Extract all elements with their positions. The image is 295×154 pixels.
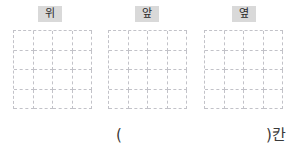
- grid-cell[interactable]: [129, 51, 149, 71]
- grid-cell[interactable]: [225, 51, 245, 71]
- view-label-side: 옆: [232, 6, 256, 22]
- grid-cell[interactable]: [225, 31, 245, 51]
- grid-side-view[interactable]: [204, 30, 283, 109]
- grid-cell[interactable]: [148, 31, 168, 51]
- answer-open-paren: (: [116, 126, 122, 144]
- grid-cell[interactable]: [129, 90, 149, 110]
- grid-cell[interactable]: [109, 31, 129, 51]
- grid-cell[interactable]: [168, 90, 188, 110]
- view-label-front: 앞: [135, 6, 159, 22]
- grid-cell[interactable]: [205, 31, 225, 51]
- grid-cell[interactable]: [264, 70, 284, 90]
- grid-cell[interactable]: [109, 51, 129, 71]
- grid-cell[interactable]: [73, 51, 93, 71]
- grid-cell[interactable]: [264, 31, 284, 51]
- grid-cell[interactable]: [264, 51, 284, 71]
- grid-cell[interactable]: [14, 51, 34, 71]
- grid-cell[interactable]: [73, 90, 93, 110]
- grid-cell[interactable]: [205, 90, 225, 110]
- grid-top-view[interactable]: [13, 30, 92, 109]
- grid-cell[interactable]: [148, 51, 168, 71]
- grid-cell[interactable]: [34, 70, 54, 90]
- grid-cell[interactable]: [53, 70, 73, 90]
- grid-cell[interactable]: [168, 51, 188, 71]
- grid-cell[interactable]: [129, 31, 149, 51]
- grid-cell[interactable]: [109, 70, 129, 90]
- grid-cell[interactable]: [34, 90, 54, 110]
- grid-cell[interactable]: [244, 70, 264, 90]
- grid-cell[interactable]: [73, 31, 93, 51]
- answer-close-paren-unit: )칸: [266, 126, 286, 144]
- view-label-top: 위: [38, 6, 62, 22]
- grid-cell[interactable]: [34, 51, 54, 71]
- views-worksheet: 위 앞 옆: [0, 0, 295, 154]
- grid-cell[interactable]: [205, 70, 225, 90]
- grid-cell[interactable]: [109, 90, 129, 110]
- grid-cell[interactable]: [264, 90, 284, 110]
- grid-cell[interactable]: [14, 31, 34, 51]
- grid-cell[interactable]: [148, 90, 168, 110]
- grid-cell[interactable]: [168, 31, 188, 51]
- grid-cell[interactable]: [168, 70, 188, 90]
- grid-cell[interactable]: [225, 70, 245, 90]
- grid-cell[interactable]: [14, 70, 34, 90]
- grid-cell[interactable]: [73, 70, 93, 90]
- grid-cell[interactable]: [53, 51, 73, 71]
- grid-cell[interactable]: [14, 90, 34, 110]
- grid-cell[interactable]: [244, 51, 264, 71]
- grid-cell[interactable]: [244, 90, 264, 110]
- grid-cell[interactable]: [34, 31, 54, 51]
- grid-front-view[interactable]: [108, 30, 187, 109]
- grid-cell[interactable]: [53, 90, 73, 110]
- grid-cell[interactable]: [129, 70, 149, 90]
- grid-cell[interactable]: [244, 31, 264, 51]
- grid-cell[interactable]: [205, 51, 225, 71]
- grid-cell[interactable]: [148, 70, 168, 90]
- grid-cell[interactable]: [225, 90, 245, 110]
- grid-cell[interactable]: [53, 31, 73, 51]
